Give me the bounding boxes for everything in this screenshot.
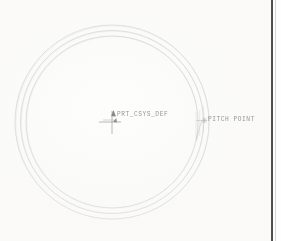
pitch-point-label: PITCH POINT: [208, 116, 255, 123]
outer-addendum-circle-ghost: [16, 26, 209, 219]
csys-y-axis-arrow: [113, 118, 117, 123]
sheet-border-right-inner: [275, 0, 276, 241]
sheet-border-right: [271, 0, 273, 241]
cad-drawing-canvas: PRT_CSYS_DEF PITCH POINT: [0, 0, 281, 241]
csys-label: PRT_CSYS_DEF: [117, 110, 168, 117]
